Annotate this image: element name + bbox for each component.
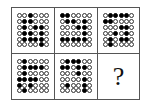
- empty-circle: [65, 25, 70, 30]
- puzzle-cell-4: [12, 54, 55, 99]
- empty-circle: [65, 88, 70, 93]
- empty-circle: [87, 31, 92, 36]
- empty-circle: [60, 77, 65, 82]
- filled-circle: [124, 13, 129, 18]
- filled-circle: [39, 25, 44, 30]
- filled-circle: [108, 19, 113, 24]
- empty-circle: [82, 13, 87, 18]
- empty-circle: [39, 88, 44, 93]
- filled-circle: [76, 37, 81, 42]
- empty-circle: [65, 31, 70, 36]
- empty-circle: [129, 19, 134, 24]
- filled-circle: [22, 88, 27, 93]
- empty-circle: [28, 71, 33, 76]
- empty-circle: [33, 42, 38, 47]
- empty-circle: [33, 88, 38, 93]
- empty-circle: [87, 77, 92, 82]
- empty-circle: [82, 42, 87, 47]
- empty-circle: [28, 25, 33, 30]
- empty-circle: [22, 83, 27, 88]
- empty-circle: [39, 77, 44, 82]
- filled-circle: [119, 37, 124, 42]
- empty-circle: [87, 71, 92, 76]
- empty-circle: [33, 19, 38, 24]
- puzzle-cell-3: [98, 8, 139, 54]
- filled-circle: [76, 65, 81, 70]
- filled-circle: [113, 13, 118, 18]
- empty-circle: [129, 37, 134, 42]
- filled-circle: [108, 42, 113, 47]
- filled-circle: [103, 19, 108, 24]
- empty-circle: [44, 77, 49, 82]
- filled-circle: [65, 13, 70, 18]
- empty-circle: [71, 31, 76, 36]
- filled-circle: [22, 31, 27, 36]
- filled-circle: [28, 37, 33, 42]
- filled-circle: [76, 59, 81, 64]
- empty-circle: [113, 37, 118, 42]
- empty-circle: [39, 59, 44, 64]
- filled-circle: [22, 65, 27, 70]
- empty-circle: [103, 42, 108, 47]
- filled-circle: [28, 65, 33, 70]
- dot-matrix: [60, 13, 92, 48]
- empty-circle: [60, 25, 65, 30]
- empty-circle: [60, 88, 65, 93]
- empty-circle: [113, 25, 118, 30]
- filled-circle: [39, 37, 44, 42]
- filled-circle: [124, 37, 129, 42]
- empty-circle: [119, 42, 124, 47]
- empty-circle: [44, 71, 49, 76]
- empty-circle: [71, 71, 76, 76]
- filled-circle: [17, 77, 22, 82]
- empty-circle: [44, 83, 49, 88]
- empty-circle: [129, 42, 134, 47]
- filled-circle: [22, 77, 27, 82]
- empty-circle: [65, 71, 70, 76]
- empty-circle: [44, 37, 49, 42]
- empty-circle: [113, 19, 118, 24]
- filled-circle: [71, 59, 76, 64]
- filled-circle: [28, 77, 33, 82]
- empty-circle: [113, 42, 118, 47]
- filled-circle: [76, 25, 81, 30]
- empty-circle: [39, 83, 44, 88]
- empty-circle: [44, 25, 49, 30]
- empty-circle: [33, 83, 38, 88]
- empty-circle: [76, 88, 81, 93]
- empty-circle: [39, 13, 44, 18]
- empty-circle: [76, 42, 81, 47]
- empty-circle: [60, 19, 65, 24]
- filled-circle: [119, 25, 124, 30]
- filled-circle: [71, 37, 76, 42]
- empty-circle: [17, 59, 22, 64]
- empty-circle: [60, 31, 65, 36]
- filled-circle: [82, 19, 87, 24]
- empty-circle: [129, 25, 134, 30]
- empty-circle: [87, 88, 92, 93]
- dot-matrix: [60, 59, 92, 94]
- empty-circle: [124, 42, 129, 47]
- empty-circle: [71, 83, 76, 88]
- empty-circle: [44, 42, 49, 47]
- filled-circle: [82, 83, 87, 88]
- empty-circle: [33, 71, 38, 76]
- puzzle-cell-answer: ?: [98, 54, 139, 99]
- filled-circle: [82, 65, 87, 70]
- filled-circle: [124, 31, 129, 36]
- puzzle-cell-5: [55, 54, 98, 99]
- empty-circle: [71, 65, 76, 70]
- empty-circle: [44, 88, 49, 93]
- filled-circle: [60, 65, 65, 70]
- empty-circle: [17, 19, 22, 24]
- empty-circle: [28, 42, 33, 47]
- empty-circle: [119, 19, 124, 24]
- filled-circle: [28, 83, 33, 88]
- empty-circle: [44, 19, 49, 24]
- empty-circle: [44, 65, 49, 70]
- empty-circle: [44, 31, 49, 36]
- empty-circle: [17, 65, 22, 70]
- empty-circle: [28, 88, 33, 93]
- filled-circle: [124, 25, 129, 30]
- empty-circle: [103, 37, 108, 42]
